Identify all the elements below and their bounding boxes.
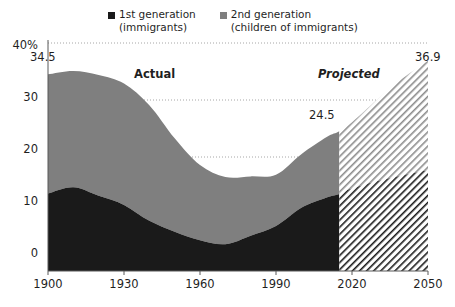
data-label-end: 36.9 — [415, 50, 441, 64]
x-axis-tick-1900: 1900 — [26, 277, 70, 291]
chart-legend: 1st generation (immigrants) 2nd generati… — [108, 8, 358, 33]
annotation-projected: Projected — [318, 67, 380, 81]
legend-label-2nd-generation: 2nd generation (children of immigrants) — [231, 8, 358, 33]
chart-container: 1st generation (immigrants) 2nd generati… — [0, 0, 455, 307]
legend-swatch-1st-generation — [108, 12, 115, 19]
data-label-mid: 24.5 — [309, 108, 335, 122]
x-axis-tick-2020: 2020 — [330, 277, 374, 291]
x-axis-tick-1930: 1930 — [102, 277, 146, 291]
y-axis-tick-0: 0 — [4, 246, 38, 260]
y-axis-tick-30: 30 — [4, 90, 38, 104]
y-axis-tick-20: 20 — [4, 142, 38, 156]
annotation-actual: Actual — [134, 67, 175, 81]
y-axis-tick-10: 10 — [4, 194, 38, 208]
legend-item-2nd-generation: 2nd generation (children of immigrants) — [220, 8, 358, 33]
x-axis-tick-2050: 2050 — [406, 277, 450, 291]
legend-label-1st-generation: 1st generation (immigrants) — [119, 8, 196, 33]
area-series-layer — [48, 61, 428, 271]
legend-swatch-2nd-generation — [220, 12, 227, 19]
x-axis-tick-1960: 1960 — [178, 277, 222, 291]
data-label-start: 34.5 — [30, 50, 56, 64]
chart-plot-area — [0, 0, 455, 307]
legend-item-1st-generation: 1st generation (immigrants) — [108, 8, 196, 33]
x-axis-tick-1990: 1990 — [254, 277, 298, 291]
